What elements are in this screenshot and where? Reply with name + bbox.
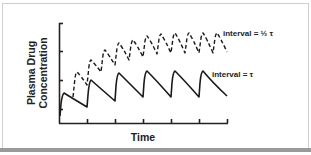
x-axis-label: Time: [131, 131, 155, 143]
chart: Plasma Drug Concentration Time interval …: [0, 0, 311, 155]
y-axis-label-line2: Concentration: [37, 37, 49, 108]
x-ticks: [88, 119, 228, 123]
y-axis-label-line1: Plasma Drug: [25, 41, 37, 105]
series-interval-tau: [60, 71, 227, 116]
annotation-tau: interval = τ: [212, 70, 254, 79]
y-axis-label: Plasma Drug Concentration: [25, 37, 49, 108]
axes: [59, 23, 228, 124]
annotation-half-tau: interval = ½ τ: [223, 29, 273, 38]
series-interval-half-tau: [73, 33, 227, 97]
